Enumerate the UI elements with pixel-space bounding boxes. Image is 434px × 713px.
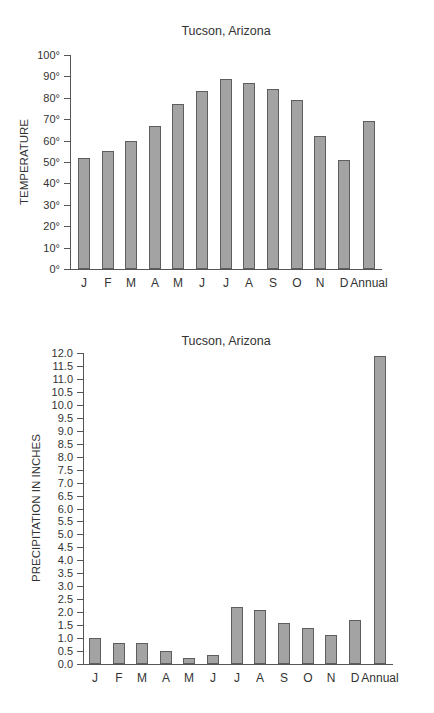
x-tick-label: M [137, 671, 147, 685]
y-tick [77, 353, 83, 354]
bar [254, 610, 266, 664]
x-tick-label: O [292, 276, 301, 290]
y-tick [77, 560, 83, 561]
bar [374, 356, 386, 664]
y-tick-label: 4.0 [33, 554, 73, 566]
x-tick-label: D [340, 276, 349, 290]
y-tick-label: 0.0 [33, 658, 73, 670]
y-tick-label: 3.0 [33, 580, 73, 592]
x-tick-label: N [316, 276, 325, 290]
bar [196, 91, 208, 269]
x-tick-label: M [173, 276, 183, 290]
x-axis [64, 269, 382, 270]
x-tick-label: M [126, 276, 136, 290]
y-tick [77, 573, 83, 574]
bar [220, 79, 232, 269]
y-tick-label: 9.0 [33, 425, 73, 437]
bar [78, 158, 90, 269]
y-tick [77, 431, 83, 432]
y-tick-label: 6.5 [33, 490, 73, 502]
bar [160, 651, 172, 664]
y-tick-label: 12.0 [33, 347, 73, 359]
y-tick-label: 40° [20, 177, 60, 189]
x-tick-label: J [223, 276, 229, 290]
bar [231, 607, 243, 664]
y-tick-label: 100° [20, 49, 60, 61]
y-tick [64, 183, 70, 184]
bar [125, 141, 137, 269]
y-tick [77, 664, 83, 665]
y-tick [77, 418, 83, 419]
y-tick-label: 11.0 [33, 373, 73, 385]
y-tick-label: 50° [20, 156, 60, 168]
y-tick [64, 55, 70, 56]
bar [136, 643, 148, 664]
y-tick-label: 0.5 [33, 645, 73, 657]
y-tick [77, 496, 83, 497]
y-tick-label: 80° [20, 92, 60, 104]
y-tick [77, 599, 83, 600]
y-tick [77, 366, 83, 367]
bar [172, 104, 184, 269]
x-tick-label: A [245, 276, 253, 290]
y-tick-label: 20° [20, 220, 60, 232]
y-tick [64, 162, 70, 163]
x-tick-label: J [199, 276, 205, 290]
y-tick [77, 547, 83, 548]
y-tick-label: 3.5 [33, 567, 73, 579]
y-tick-label: 6.0 [33, 503, 73, 515]
bar [349, 620, 361, 664]
bar [325, 635, 337, 664]
bar [102, 151, 114, 269]
y-tick-label: 90° [20, 70, 60, 82]
y-tick-label: 5.5 [33, 515, 73, 527]
y-tick-label: 8.5 [33, 438, 73, 450]
y-tick [77, 612, 83, 613]
y-tick [77, 534, 83, 535]
bar [183, 658, 195, 664]
x-tick-label: N [327, 671, 336, 685]
y-tick [77, 651, 83, 652]
y-tick-label: 30° [20, 199, 60, 211]
x-axis [77, 664, 393, 665]
bar [113, 643, 125, 664]
x-tick-label: A [162, 671, 170, 685]
x-tick-label: J [210, 671, 216, 685]
y-tick-label: 5.0 [33, 528, 73, 540]
y-tick-label: 7.0 [33, 477, 73, 489]
y-tick [77, 457, 83, 458]
chart-title: Tucson, Arizona [181, 24, 270, 38]
x-tick-label: J [81, 276, 87, 290]
x-tick-label: O [303, 671, 312, 685]
bar [267, 89, 279, 269]
y-tick [77, 405, 83, 406]
y-axis [70, 55, 71, 270]
y-tick [64, 119, 70, 120]
bar [207, 655, 219, 664]
y-tick [77, 379, 83, 380]
bar [302, 628, 314, 664]
x-tick-label: Annual [350, 276, 387, 290]
y-tick-label: 11.5 [33, 360, 73, 372]
x-tick-label: F [104, 276, 111, 290]
y-tick [77, 444, 83, 445]
y-tick [77, 483, 83, 484]
bar [149, 126, 161, 269]
y-tick [64, 141, 70, 142]
y-tick-label: 1.0 [33, 632, 73, 644]
bar [314, 136, 326, 269]
y-tick-label: 7.5 [33, 464, 73, 476]
y-tick [64, 98, 70, 99]
y-tick-label: 10° [20, 242, 60, 254]
y-tick [77, 509, 83, 510]
y-tick-label: 60° [20, 135, 60, 147]
y-tick-label: 9.5 [33, 412, 73, 424]
y-tick-label: 8.0 [33, 451, 73, 463]
bar [243, 83, 255, 269]
y-axis [83, 353, 84, 665]
y-tick [64, 248, 70, 249]
y-tick [77, 470, 83, 471]
y-tick-label: 2.0 [33, 606, 73, 618]
y-tick-label: 10.0 [33, 399, 73, 411]
y-tick [77, 638, 83, 639]
